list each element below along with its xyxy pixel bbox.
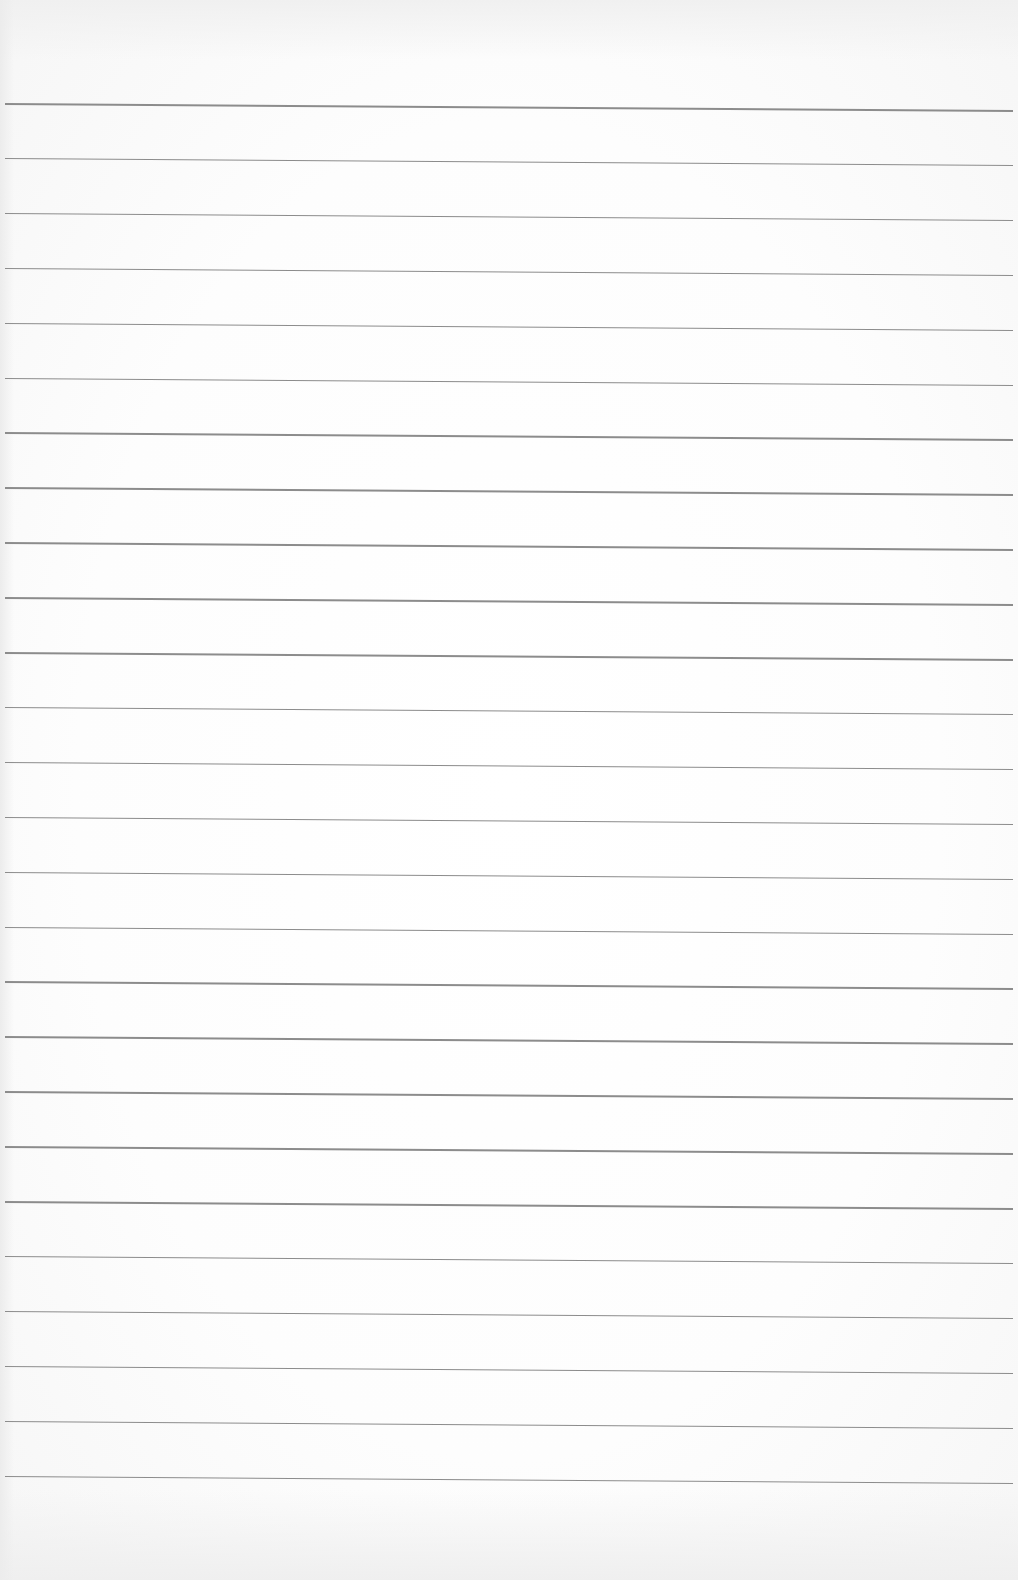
ruled-line [5, 1091, 1013, 1100]
ruled-line [5, 213, 1013, 222]
ruled-line [5, 1146, 1013, 1155]
ruled-line [5, 158, 1013, 167]
ruled-line [5, 432, 1013, 441]
ruled-line [5, 707, 1013, 716]
ruled-line [5, 872, 1013, 881]
ruled-line [5, 542, 1013, 551]
ruled-line [5, 1366, 1013, 1375]
ruled-line [5, 817, 1013, 826]
ruled-line [5, 378, 1013, 387]
ruled-line [5, 1256, 1013, 1265]
ruled-line [5, 1476, 1013, 1485]
ruled-line [5, 487, 1013, 496]
ruled-line [5, 652, 1013, 661]
ruled-line [5, 1421, 1013, 1430]
ruled-line [5, 927, 1013, 936]
ruled-line [5, 323, 1013, 332]
ruled-line [5, 762, 1013, 771]
ruled-line [5, 1311, 1013, 1320]
ruled-line [5, 1036, 1013, 1045]
ruled-line [5, 597, 1013, 606]
ruled-line [5, 268, 1013, 277]
ruled-line [5, 981, 1013, 990]
ruled-line [5, 1201, 1013, 1210]
ruled-lines [5, 0, 1013, 1580]
ruled-line [5, 103, 1013, 112]
lined-paper-sheet [0, 0, 1018, 1580]
